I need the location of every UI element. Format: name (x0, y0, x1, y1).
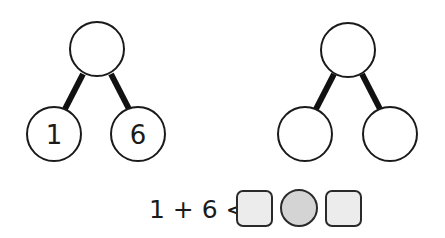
part-whole-model-2 (278, 23, 417, 161)
branch-right (362, 74, 380, 109)
equation-expression: 1 + 6 < (149, 195, 247, 224)
part-whole-model-1: 1 6 (27, 22, 165, 161)
whole-circle[interactable] (70, 22, 124, 76)
whole-circle[interactable] (321, 23, 375, 77)
branch-left (316, 74, 334, 109)
diagram-canvas: 1 6 1 + 6 < (0, 0, 445, 238)
answer-square-1[interactable] (237, 191, 272, 226)
branch-left (65, 74, 83, 109)
part-value-left: 1 (46, 120, 63, 150)
branch-right (111, 74, 129, 109)
comparison-equation: 1 + 6 < (149, 190, 361, 226)
part-circle-right[interactable] (363, 107, 417, 161)
part-value-right: 6 (130, 120, 147, 150)
part-circle-left[interactable] (278, 107, 332, 161)
answer-square-2[interactable] (326, 191, 361, 226)
answer-circle-sign[interactable] (281, 190, 317, 226)
